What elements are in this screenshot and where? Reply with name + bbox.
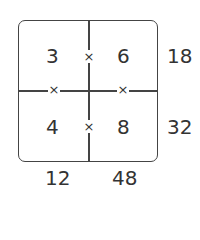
row-product-top: 18 bbox=[167, 46, 192, 66]
times-icon-right: × bbox=[117, 83, 129, 96]
row-product-bottom: 32 bbox=[167, 117, 192, 137]
cell-top-left: 3 bbox=[46, 46, 59, 66]
cell-bottom-left: 4 bbox=[46, 117, 59, 137]
horizontal-divider bbox=[18, 90, 158, 92]
times-icon-top: × bbox=[83, 50, 95, 63]
times-icon-left: × bbox=[48, 83, 60, 96]
cell-bottom-right: 8 bbox=[117, 117, 130, 137]
times-icon-bottom: × bbox=[83, 120, 95, 133]
column-product-left: 12 bbox=[45, 168, 70, 188]
cell-top-right: 6 bbox=[117, 46, 130, 66]
column-product-right: 48 bbox=[112, 168, 137, 188]
